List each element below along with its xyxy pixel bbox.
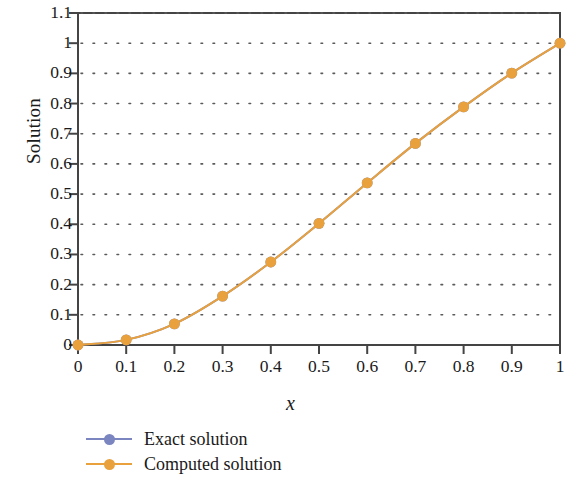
y-tick-label: 0.2 [26,276,72,294]
chart-figure: 00.10.20.30.40.50.60.70.80.911.1 00.10.2… [0,0,581,481]
data-point-marker [217,291,228,302]
y-axis-title: Solution [23,71,45,191]
legend-label: Exact solution [144,430,247,448]
y-tick-label: 0.3 [26,246,72,264]
data-point-marker [169,318,180,329]
y-tick-label: 0.4 [26,216,72,234]
y-tick-label: 0.1 [26,306,72,324]
legend-swatch [86,430,132,448]
legend-item[interactable]: Computed solution [86,453,282,475]
legend-swatch [86,455,132,473]
grid-lines [81,13,559,315]
series-line [78,43,560,345]
x-axis-tick-labels: 00.10.20.30.40.50.60.70.80.91 [0,358,581,384]
y-tick-label: 0 [26,336,72,354]
chart-legend: Exact solutionComputed solution [86,428,282,475]
legend-item[interactable]: Exact solution [86,428,282,450]
data-point-marker [265,257,276,268]
legend-label: Computed solution [144,455,282,473]
legend-marker-icon [104,434,115,445]
x-axis-title: x [0,392,581,415]
plot-frame [78,13,560,345]
data-point-marker [314,218,325,229]
data-point-marker [362,178,373,189]
data-point-marker [121,334,132,345]
data-point-marker [458,101,469,112]
y-tick-label: 1.1 [26,4,72,22]
data-point-marker [506,68,517,79]
series-exact-solution [73,38,566,351]
data-point-marker [73,340,84,351]
x-tick-label: 1 [530,358,581,376]
series-computed-solution [73,38,566,351]
data-point-marker [555,38,566,49]
legend-marker-icon [104,459,115,470]
data-point-marker [410,138,421,149]
y-tick-label: 1 [26,34,72,52]
